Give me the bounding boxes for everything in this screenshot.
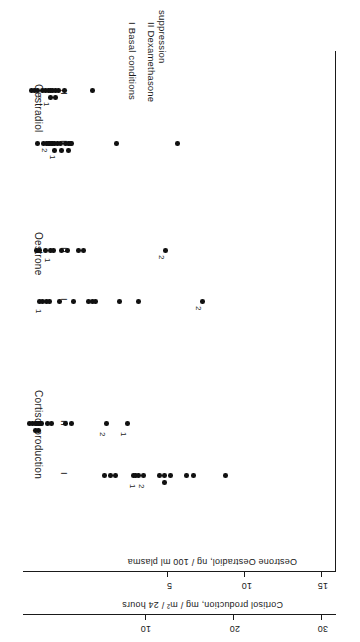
data-point [223, 473, 228, 478]
data-point [59, 148, 64, 153]
cortisol-axis-ticklabel-30: 30 [317, 624, 328, 634]
plot-frame-baseline [335, 51, 336, 572]
data-point [43, 248, 48, 253]
data-point [65, 248, 70, 253]
data-point [175, 141, 180, 146]
cortisol-axis-ticklabel-20: 20 [229, 624, 240, 634]
data-point-label-2: 2 [40, 148, 49, 152]
hormone-axis-tick-15 [321, 572, 322, 577]
legend-item-dexamethasone: II Dexamethasone [146, 22, 157, 102]
data-point-label-1: 1 [128, 484, 137, 488]
legend-item-suppression: suppression [157, 10, 168, 63]
data-point-label-1: 1 [34, 309, 43, 313]
row-label-cortisol-I: I [59, 472, 70, 475]
cortisol-axis-title: Cortisol production, mg / m² / 24 hours [122, 600, 283, 610]
data-point [57, 299, 62, 304]
data-point [53, 95, 58, 100]
data-point [76, 248, 81, 253]
data-point [125, 421, 130, 426]
data-point [47, 299, 52, 304]
figure-stage: 5 10 15 Oestrone Oestradiol, ng / 100 ml… [0, 0, 360, 642]
data-point [56, 88, 61, 93]
data-point-label-2: 2 [137, 484, 146, 488]
data-point [48, 95, 53, 100]
hormone-axis-line [23, 571, 336, 572]
data-point [104, 421, 109, 426]
hormone-axis-ticklabel-15: 15 [317, 581, 328, 591]
data-point-label-1: 1 [42, 102, 51, 106]
hormone-axis-tick-10 [244, 572, 245, 577]
data-point [33, 428, 38, 433]
data-point [81, 248, 86, 253]
data-point-label-2: 2 [157, 255, 166, 259]
data-point [63, 421, 68, 426]
hormone-axis-title: Oestrone Oestradiol, ng / 100 ml plasma [128, 557, 297, 567]
data-point [157, 473, 162, 478]
data-point [69, 421, 74, 426]
data-point-label-2: 2 [194, 306, 203, 310]
data-point [37, 248, 42, 253]
hormone-axis-ticklabel-5: 5 [167, 581, 172, 591]
data-point-label-1: 1 [43, 258, 52, 262]
data-point [184, 473, 189, 478]
data-point [35, 88, 40, 93]
data-point [136, 299, 141, 304]
data-point [93, 299, 98, 304]
data-point [168, 473, 173, 478]
panel-title-cortisol: Cortisol production [33, 390, 44, 479]
cortisol-axis-tick-20 [233, 615, 234, 620]
data-point [117, 299, 122, 304]
data-point [69, 141, 74, 146]
legend-item-basal: I Basal conditions [127, 22, 138, 100]
data-point [108, 473, 113, 478]
data-point [163, 248, 168, 253]
hormone-axis-tick-5 [167, 572, 168, 577]
cortisol-axis-line [23, 614, 336, 615]
figure-canvas: 5 10 15 Oestrone Oestradiol, ng / 100 ml… [0, 0, 360, 642]
data-point-label-1: 1 [48, 155, 57, 159]
data-point [39, 421, 44, 426]
data-point [58, 141, 63, 146]
data-point [114, 141, 119, 146]
data-point [162, 480, 167, 485]
data-point [59, 248, 64, 253]
hormone-axis-ticklabel-10: 10 [241, 581, 252, 591]
data-point [51, 248, 56, 253]
data-point-label-2: 2 [98, 432, 107, 436]
data-point [102, 473, 107, 478]
data-point [191, 473, 196, 478]
data-point [35, 141, 40, 146]
panel-title-oestrone: Oestrone [33, 232, 44, 276]
data-point [200, 299, 205, 304]
data-point [90, 88, 95, 93]
data-point [162, 473, 167, 478]
cortisol-axis-tick-30 [321, 615, 322, 620]
data-point [52, 148, 57, 153]
data-point [66, 148, 71, 153]
data-point [71, 299, 76, 304]
data-point-label-1: 1 [119, 432, 128, 436]
data-point [113, 473, 118, 478]
data-point-label-2: 2 [34, 95, 43, 99]
data-point [62, 88, 67, 93]
cortisol-axis-tick-10 [145, 615, 146, 620]
cortisol-axis-ticklabel-10: 10 [140, 624, 151, 634]
data-point [136, 473, 141, 478]
data-point [141, 473, 146, 478]
data-point [49, 421, 54, 426]
